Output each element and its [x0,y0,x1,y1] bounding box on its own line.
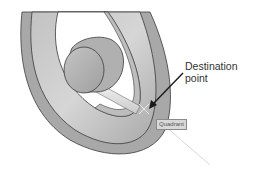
callout-line-1: Destination [185,60,238,72]
cad-model-scene [0,0,253,170]
callout-line-2: point [185,72,238,84]
destination-point-label: Destination point [185,60,238,84]
quadrant-snap-tooltip: Quadrant [156,119,187,130]
hub-front-face [64,47,104,93]
